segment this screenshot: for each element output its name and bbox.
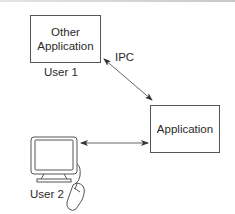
application-label: Application	[157, 122, 213, 136]
other-application-node: Other Application	[30, 15, 101, 63]
user2-caption: User 2	[30, 188, 64, 200]
user1-caption: User 1	[44, 66, 78, 78]
top-border-rule	[0, 0, 235, 2]
ipc-edge-label: IPC	[115, 51, 134, 63]
mouse-icon	[67, 183, 85, 210]
other-application-label-line2: Application	[37, 39, 93, 53]
other-application-label-line1: Other	[37, 25, 93, 39]
application-node: Application	[150, 105, 220, 153]
computer-monitor-icon	[31, 137, 80, 184]
ipc-arrow	[104, 59, 152, 100]
